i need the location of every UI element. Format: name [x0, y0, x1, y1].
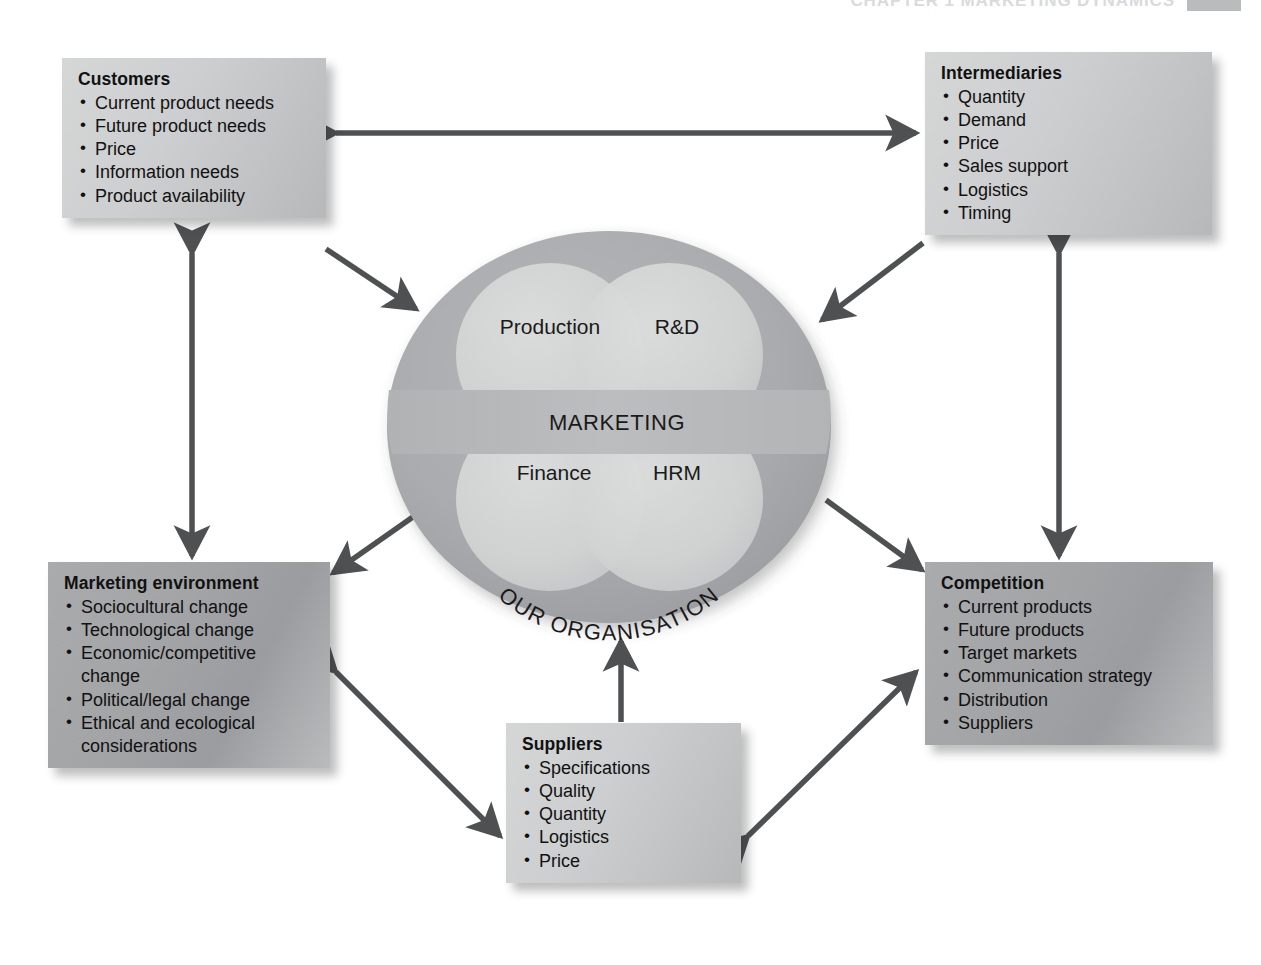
- list-item: Logistics: [941, 179, 1198, 202]
- list-item: Technological change: [64, 619, 316, 642]
- diagram-canvas: CHAPTER 1 MARKETING DYNAMICS: [0, 0, 1261, 965]
- list-item: Timing: [941, 202, 1198, 225]
- list-item: Quantity: [941, 86, 1198, 109]
- list-item: Product availability: [78, 185, 312, 208]
- box-customers-title: Customers: [78, 69, 312, 90]
- box-marketing-environment-title: Marketing environment: [64, 573, 316, 594]
- list-item: Information needs: [78, 161, 312, 184]
- box-customers[interactable]: Customers Current product needs Future p…: [62, 58, 326, 218]
- list-item: Specifications: [522, 757, 727, 780]
- box-suppliers[interactable]: Suppliers Specifications Quality Quantit…: [506, 723, 741, 883]
- list-item: Quality: [522, 780, 727, 803]
- box-intermediaries-list: Quantity Demand Price Sales support Logi…: [941, 86, 1198, 225]
- list-item: Sales support: [941, 155, 1198, 178]
- list-item: Suppliers: [941, 712, 1199, 735]
- petal-label-hrm: HRM: [653, 461, 701, 484]
- petal-label-finance: Finance: [517, 461, 592, 484]
- box-intermediaries-title: Intermediaries: [941, 63, 1198, 84]
- marketing-band-label: MARKETING: [549, 410, 685, 435]
- list-item: Political/legal change: [64, 689, 316, 712]
- list-item: Price: [941, 132, 1198, 155]
- organisation-diagram: Production R&D MARKETING Finance HRM OUR…: [372, 222, 846, 632]
- list-item: Demand: [941, 109, 1198, 132]
- list-item: Economic/competitive change: [64, 642, 316, 688]
- list-item: Distribution: [941, 689, 1199, 712]
- list-item: Target markets: [941, 642, 1199, 665]
- box-suppliers-title: Suppliers: [522, 734, 727, 755]
- box-competition-list: Current products Future products Target …: [941, 596, 1199, 735]
- box-competition-title: Competition: [941, 573, 1199, 594]
- box-marketing-environment-list: Sociocultural change Technological chang…: [64, 596, 316, 758]
- box-competition[interactable]: Competition Current products Future prod…: [925, 562, 1213, 745]
- list-item: Communication strategy: [941, 665, 1199, 688]
- list-item: Current product needs: [78, 92, 312, 115]
- list-item: Price: [522, 850, 727, 873]
- box-marketing-environment[interactable]: Marketing environment Sociocultural chan…: [48, 562, 330, 768]
- box-intermediaries[interactable]: Intermediaries Quantity Demand Price Sal…: [925, 52, 1212, 235]
- list-item: Future products: [941, 619, 1199, 642]
- list-item: Logistics: [522, 826, 727, 849]
- list-item: Quantity: [522, 803, 727, 826]
- box-customers-list: Current product needs Future product nee…: [78, 92, 312, 208]
- petal-label-rnd: R&D: [655, 315, 699, 338]
- connector-suppliers-competition: [748, 672, 916, 836]
- list-item: Future product needs: [78, 115, 312, 138]
- petal-label-production: Production: [500, 315, 600, 338]
- list-item: Current products: [941, 596, 1199, 619]
- list-item: Price: [78, 138, 312, 161]
- list-item: Ethical and ecological considerations: [64, 712, 316, 758]
- connector-environment-suppliers: [336, 672, 500, 836]
- list-item: Sociocultural change: [64, 596, 316, 619]
- box-suppliers-list: Specifications Quality Quantity Logistic…: [522, 757, 727, 873]
